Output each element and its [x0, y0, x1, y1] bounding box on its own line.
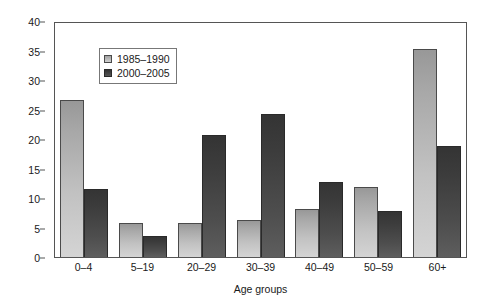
x-axis-title: Age groups [54, 283, 467, 295]
x-tick-label: 20–29 [172, 262, 231, 278]
y-tick-label: 30 [28, 76, 40, 87]
x-tick-label: 30–39 [231, 262, 290, 278]
y-tick-label: 40 [28, 17, 40, 28]
y-tick-mark [40, 258, 45, 259]
x-tick-label: 5–19 [113, 262, 172, 278]
legend-swatch-icon-series-b [104, 69, 112, 77]
bar [261, 114, 285, 257]
bar-chart: % of total deaths 0510152025303540 1985–… [0, 0, 481, 301]
y-tick-mark [40, 199, 45, 200]
legend-swatch-icon-series-a [104, 55, 112, 63]
y-tick-label: 10 [28, 194, 40, 205]
bar [119, 223, 143, 257]
x-tick-label: 60+ [408, 262, 467, 278]
legend-item-series-b: 2000–2005 [104, 66, 170, 80]
y-tick-label: 15 [28, 164, 40, 175]
bar [60, 100, 84, 257]
y-axis-ticks: 0510152025303540 [0, 0, 54, 301]
y-tick-mark [40, 169, 45, 170]
bar-group [407, 23, 466, 257]
legend-label-series-a: 1985–1990 [117, 54, 170, 65]
bar-group [231, 23, 290, 257]
bar [202, 135, 226, 257]
bar [143, 236, 167, 257]
y-tick-mark [40, 51, 45, 52]
bar [84, 189, 108, 257]
bar [295, 209, 319, 257]
y-tick-mark [40, 110, 45, 111]
bar-group [290, 23, 349, 257]
bar [437, 146, 461, 257]
legend: 1985–1990 2000–2005 [99, 48, 177, 84]
y-tick-mark [40, 140, 45, 141]
y-tick-label: 25 [28, 105, 40, 116]
y-tick-label: 20 [28, 135, 40, 146]
x-axis-tick-labels: 0–45–1920–2930–3940–4950–5960+ [54, 262, 467, 278]
bar [319, 182, 343, 257]
y-tick-mark [40, 22, 45, 23]
bar [378, 211, 402, 257]
y-tick-mark [40, 228, 45, 229]
x-tick-label: 50–59 [349, 262, 408, 278]
bar-group [172, 23, 231, 257]
bar [178, 223, 202, 257]
bar [413, 49, 437, 257]
y-tick-label: 35 [28, 46, 40, 57]
legend-item-series-a: 1985–1990 [104, 52, 170, 66]
bar [237, 220, 261, 257]
x-tick-label: 0–4 [54, 262, 113, 278]
y-tick-mark [40, 81, 45, 82]
bar [354, 187, 378, 257]
legend-label-series-b: 2000–2005 [117, 68, 170, 79]
bar-group [349, 23, 408, 257]
x-tick-label: 40–49 [290, 262, 349, 278]
